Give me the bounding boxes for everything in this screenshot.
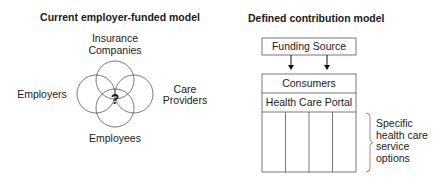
brace-label-line4: options [376,152,410,164]
funding-source-label: Funding Source [272,40,346,52]
label-employees: Employees [89,132,141,144]
portal-label: Health Care Portal [266,96,352,108]
diagram-canvas: Current employer-funded model Insurance … [0,0,442,181]
arrow-left [288,55,294,70]
brace-label-line3: service [376,140,409,152]
label-employers: Employers [17,88,67,100]
arrow-right [324,55,330,70]
question-mark: ? [111,91,120,107]
consumers-label: Consumers [282,77,336,89]
label-insurance-line1: Insurance [92,32,138,44]
brace-icon [366,113,373,172]
label-care-line2: Providers [163,94,207,106]
right-model-title: Defined contribution model [248,12,385,24]
arrow-down-icon [288,65,294,70]
defined-contribution-model: Defined contribution model Funding Sourc… [248,12,428,172]
current-employer-funded-model: Current employer-funded model Insurance … [17,11,207,144]
brace-label-line1: Specific [376,117,413,129]
left-model-title: Current employer-funded model [40,11,200,23]
label-insurance-line2: Companies [88,44,141,56]
arrow-down-icon [324,65,330,70]
